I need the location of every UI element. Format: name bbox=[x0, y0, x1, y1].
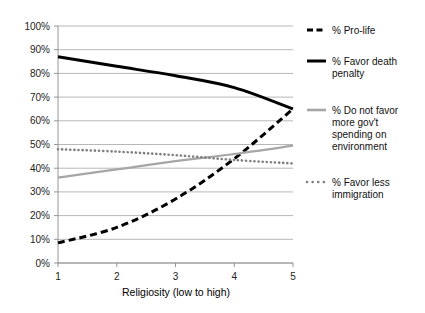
x-axis-title: Religiosity (low to high) bbox=[122, 286, 230, 298]
y-tick-label: 0% bbox=[36, 258, 51, 269]
series-line-1 bbox=[58, 109, 293, 243]
x-tick-labels: 12345 bbox=[55, 263, 296, 282]
chart-legend: % Pro-life% Favor deathpenalty% Do not f… bbox=[307, 25, 399, 200]
x-tick-label: 5 bbox=[290, 271, 296, 282]
line-chart: 0%10%20%30%40%50%60%70%80%90%100% 12345 … bbox=[0, 0, 425, 313]
y-tick-label: 80% bbox=[30, 68, 50, 79]
legend-label-1: % Pro-life bbox=[332, 25, 376, 36]
legend-label-3: environment bbox=[332, 141, 387, 152]
legend-label-3: spending on bbox=[332, 129, 387, 140]
legend-label-3: more gov't bbox=[332, 117, 379, 128]
legend-label-4: % Favor less bbox=[332, 177, 390, 188]
x-tick-label: 3 bbox=[173, 271, 179, 282]
y-tick-label: 90% bbox=[30, 44, 50, 55]
y-tick-label: 10% bbox=[30, 234, 50, 245]
y-tick-label: 20% bbox=[30, 210, 50, 221]
y-tick-label: 50% bbox=[30, 139, 50, 150]
data-series-group bbox=[58, 57, 293, 243]
legend-label-2: % Favor death bbox=[332, 56, 397, 67]
legend-label-2: penalty bbox=[332, 68, 364, 79]
x-tick-label: 4 bbox=[231, 271, 237, 282]
y-tick-label: 70% bbox=[30, 92, 50, 103]
series-line-2 bbox=[58, 57, 293, 109]
x-tick-label: 1 bbox=[55, 271, 61, 282]
y-tick-label: 100% bbox=[24, 21, 50, 32]
chart-container: 0%10%20%30%40%50%60%70%80%90%100% 12345 … bbox=[0, 0, 425, 313]
y-tick-label: 40% bbox=[30, 163, 50, 174]
legend-label-4: immigration bbox=[332, 189, 384, 200]
x-tick-label: 2 bbox=[114, 271, 120, 282]
y-tick-label: 30% bbox=[30, 186, 50, 197]
y-tick-label: 60% bbox=[30, 115, 50, 126]
legend-label-3: % Do not favor bbox=[332, 105, 399, 116]
y-tick-labels: 0%10%20%30%40%50%60%70%80%90%100% bbox=[24, 21, 50, 269]
